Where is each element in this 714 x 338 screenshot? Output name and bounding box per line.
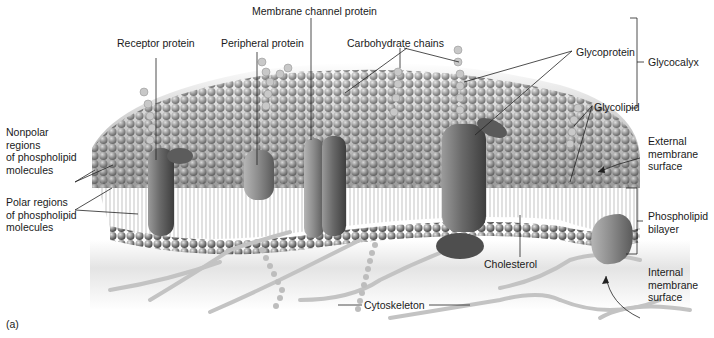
edge-protein-shape <box>591 214 633 264</box>
channel-protein-left <box>304 138 324 238</box>
label-cytoskeleton: Cytoskeleton <box>364 299 425 312</box>
peripheral-protein-shape <box>244 150 274 200</box>
label-peripheral-protein: Peripheral protein <box>221 37 304 50</box>
label-carbohydrate-chains: Carbohydrate chains <box>347 37 444 50</box>
label-nonpolar-regions: Nonpolar regions of phospholipid molecul… <box>6 126 77 176</box>
peripheral-protein-inner <box>436 233 484 259</box>
label-internal-membrane-surface: Internal membrane surface <box>648 266 698 304</box>
label-receptor-protein: Receptor protein <box>117 37 195 50</box>
label-polar-regions: Polar regions of phospholipid molecules <box>6 196 77 234</box>
label-cholesterol: Cholesterol <box>484 258 537 271</box>
glycoprotein-shape <box>442 124 486 232</box>
receptor-protein-shape <box>148 148 174 236</box>
label-glycolipid: Glycolipid <box>594 101 640 114</box>
label-glycoprotein: Glycoprotein <box>576 46 635 59</box>
label-phospholipid-bilayer: Phospholipid bilayer <box>648 210 708 235</box>
label-glycocalyx: Glycocalyx <box>648 56 699 69</box>
label-membrane-channel-protein: Membrane channel protein <box>252 5 377 18</box>
channel-protein-right <box>322 136 346 236</box>
membrane-diagram: Membrane channel protein Receptor protei… <box>0 0 714 338</box>
label-external-membrane-surface: External membrane surface <box>648 135 698 173</box>
panel-label: (a) <box>6 318 19 331</box>
